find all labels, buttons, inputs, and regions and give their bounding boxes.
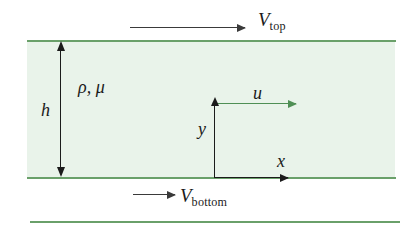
fluid-region bbox=[27, 41, 395, 178]
v-top-label: Vtop bbox=[258, 10, 286, 29]
y-axis-arrow bbox=[214, 105, 215, 178]
v-top-symbol: V bbox=[258, 9, 270, 30]
y-axis-label: y bbox=[198, 120, 206, 138]
outer-reference-line bbox=[30, 221, 400, 223]
v-top-subscript: top bbox=[270, 19, 286, 33]
bottom-plate-velocity-arrow bbox=[133, 194, 175, 195]
v-bottom-subscript: bottom bbox=[192, 195, 228, 209]
top-plate-line bbox=[27, 40, 396, 42]
flow-velocity-arrow bbox=[216, 103, 296, 104]
x-axis-label: x bbox=[277, 152, 285, 170]
top-plate-velocity-arrow bbox=[130, 27, 245, 28]
v-bottom-label: Vbottom bbox=[180, 186, 227, 205]
couette-flow-diagram: Vtop Vbottom h ρ, μ u y x bbox=[0, 0, 415, 230]
gap-height-dimension-arrow bbox=[60, 50, 61, 168]
v-bottom-symbol: V bbox=[180, 185, 192, 206]
bottom-plate-line bbox=[27, 177, 396, 179]
x-axis-arrow bbox=[214, 177, 288, 178]
velocity-label: u bbox=[253, 84, 262, 102]
fluid-properties-label: ρ, μ bbox=[78, 78, 105, 96]
height-label: h bbox=[41, 101, 50, 119]
